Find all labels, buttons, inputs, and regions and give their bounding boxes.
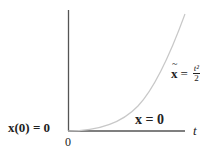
x-tilde-symbol: x bbox=[171, 67, 178, 80]
parabola-curve bbox=[68, 14, 185, 131]
initial-condition-text: x(0) = 0 bbox=[8, 120, 50, 135]
trivial-solution-label: x = 0 bbox=[135, 113, 164, 127]
trivial-solution-text: x = 0 bbox=[135, 112, 164, 127]
t-axis-label: t bbox=[193, 124, 197, 137]
initial-condition-label: x(0) = 0 bbox=[8, 121, 50, 134]
t-axis-text: t bbox=[193, 123, 197, 138]
equals-sign: = bbox=[181, 67, 188, 80]
origin-text: 0 bbox=[65, 135, 71, 149]
fraction-t-squared-over-2: t² 2 bbox=[193, 64, 200, 83]
fraction-denominator: 2 bbox=[194, 74, 199, 83]
nontrivial-solution-label: x = t² 2 bbox=[171, 64, 200, 83]
origin-label: 0 bbox=[65, 136, 71, 148]
